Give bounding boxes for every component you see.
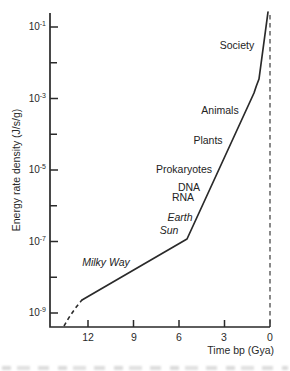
annotation-earth: Earth bbox=[167, 212, 192, 223]
y-tick-exp: -9 bbox=[40, 306, 46, 313]
y-tick-label-1e-3: 10-3 bbox=[12, 92, 46, 105]
y-tick-base: 10 bbox=[29, 21, 40, 32]
y-tick-base: 10 bbox=[29, 93, 40, 104]
annotation-animals: Animals bbox=[201, 105, 238, 116]
annotation-milky-way: Milky Way bbox=[82, 257, 130, 268]
y-axis-title: Energy rate density (J/s/g) bbox=[10, 109, 22, 232]
y-tick-base: 10 bbox=[29, 236, 40, 247]
x-tick-label-3: 3 bbox=[212, 331, 236, 343]
annotation-sun: Sun bbox=[160, 225, 179, 236]
annotation-prokaryotes: Prokaryotes bbox=[156, 164, 212, 175]
x-axis-title: Time bp (Gya) bbox=[207, 344, 274, 356]
y-tick-base: 10 bbox=[29, 164, 40, 175]
y-tick-exp: -3 bbox=[40, 92, 46, 99]
y-major-ticks bbox=[50, 27, 58, 313]
x-tick-label-9: 9 bbox=[122, 331, 146, 343]
y-tick-exp: -7 bbox=[40, 235, 46, 242]
annotation-society: Society bbox=[220, 40, 254, 51]
y-tick-base: 10 bbox=[29, 307, 40, 318]
y-tick-label-1e-7: 10-7 bbox=[12, 235, 46, 248]
x-tick-label-12: 12 bbox=[76, 331, 100, 343]
y-tick-exp: -5 bbox=[40, 163, 46, 170]
curve-dashed-segment bbox=[64, 300, 82, 326]
y-tick-label-1e-9: 10-9 bbox=[12, 306, 46, 319]
cropped-caption-remnant bbox=[2, 366, 288, 370]
y-tick-label-1e-1: 10-1 bbox=[12, 20, 46, 33]
y-tick-exp: -1 bbox=[40, 20, 46, 27]
x-tick-label-6: 6 bbox=[167, 331, 191, 343]
energy-rate-density-chart: 10-1 10-3 10-5 10-7 10-9 12 9 6 3 0 Time… bbox=[0, 0, 290, 371]
annotation-rna: RNA bbox=[172, 192, 194, 203]
x-tick-label-0: 0 bbox=[258, 331, 282, 343]
annotation-plants: Plants bbox=[193, 135, 222, 146]
x-ticks bbox=[88, 320, 270, 327]
